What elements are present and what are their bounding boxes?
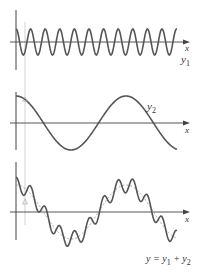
panel-y2 [10,92,190,150]
curve-label-y1: y1 [181,54,190,68]
x-axis-label-1: x [185,44,189,53]
x-axis-label-2: x [185,126,189,135]
superposition-figure: x y1 y2 x x y = y1 + y2 [0,0,206,276]
panel-sum [10,162,190,246]
x-axis-label-3: x [185,215,189,224]
curve-label-sum: y = y1 + y2 [146,254,191,267]
curve-label-y2: y2 [147,101,156,115]
waveform-diagram [0,0,206,276]
panel-y1 [10,10,190,70]
